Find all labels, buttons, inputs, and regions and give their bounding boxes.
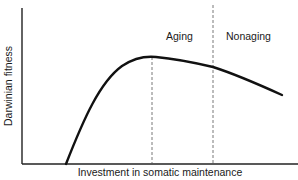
region-label-aging: Aging — [166, 30, 193, 42]
x-axis-label: Investment in somatic maintenance — [78, 166, 243, 178]
region-label-nonaging: Nonaging — [226, 30, 271, 42]
fitness-chart — [0, 0, 298, 180]
y-axis-label: Darwinian fitness — [2, 46, 14, 126]
fitness-curve — [66, 57, 282, 164]
